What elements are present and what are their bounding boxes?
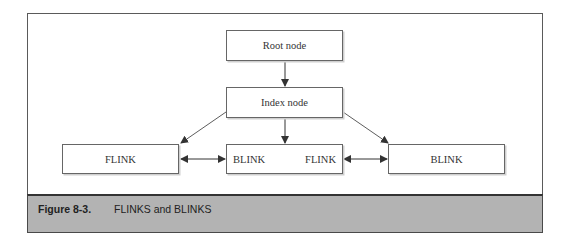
right-leaf-label: BLINK — [430, 154, 462, 165]
figure-caption: Figure 8-3. FLINKS and BLINKS — [27, 194, 543, 233]
root-node-label: Root node — [263, 40, 306, 51]
index-node: Index node — [226, 87, 343, 118]
figure-number: Figure 8-3. — [38, 203, 91, 215]
edge-index-left — [181, 112, 226, 143]
middle-leaf-node: BLINK FLINK — [226, 144, 343, 174]
left-leaf-label: FLINK — [105, 154, 136, 165]
edge-index-right — [343, 112, 388, 143]
right-leaf-node: BLINK — [388, 144, 505, 174]
index-node-label: Index node — [261, 97, 308, 108]
root-node: Root node — [226, 30, 343, 61]
figure-title: FLINKS and BLINKS — [114, 203, 211, 215]
middle-blink-label: BLINK — [233, 154, 265, 165]
left-leaf-node: FLINK — [62, 144, 179, 174]
middle-flink-label: FLINK — [305, 154, 336, 165]
